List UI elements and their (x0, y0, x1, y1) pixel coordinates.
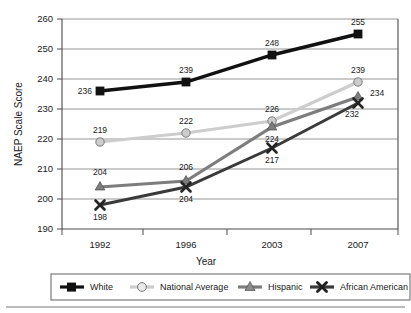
data-label-hispanic-2007: 234 (370, 88, 384, 98)
data-label-hispanic-1992: 204 (93, 167, 107, 177)
legend-label-white: White (90, 282, 113, 292)
data-label-national-2007: 239 (351, 65, 365, 75)
y-tick-label-260: 260 (37, 13, 53, 24)
data-label-white-2003: 248 (265, 38, 279, 48)
chart-figure: 260 250 240 230 220 210 200 190 1992 199… (0, 0, 411, 313)
y-tick-label-210: 210 (37, 163, 53, 174)
x-axis-title: Year (196, 256, 217, 267)
data-label-white-2007: 255 (351, 17, 365, 27)
y-tick-label-200: 200 (37, 193, 53, 204)
data-label-national-1992: 219 (93, 125, 107, 135)
x-tick-label-1992: 1992 (89, 239, 110, 250)
circle-marker-icon (96, 138, 104, 146)
data-label-hispanic-1996: 206 (179, 162, 193, 172)
circle-marker-icon (354, 78, 362, 86)
chart-legend: White National Average Hispanic (51, 274, 410, 300)
y-tick-label-190: 190 (37, 223, 53, 234)
data-label-white-1992: 236 (78, 86, 92, 96)
legend-item-national-average[interactable]: National Average (130, 282, 228, 292)
circle-marker-icon (138, 283, 147, 292)
y-axis-title: NAEP Scale Score (13, 82, 24, 166)
x-tick-label-2007: 2007 (347, 239, 368, 250)
legend-label-hispanic: Hispanic (268, 282, 303, 292)
square-marker-icon (182, 78, 191, 87)
data-label-national-1996: 222 (179, 116, 193, 126)
legend-label-national-average: National Average (160, 282, 228, 292)
y-tick-label-240: 240 (37, 73, 53, 84)
square-marker-icon (67, 283, 76, 292)
data-label-african-1992: 198 (93, 212, 107, 222)
y-tick-label-220: 220 (37, 133, 53, 144)
data-label-african-1996: 204 (179, 194, 193, 204)
circle-marker-icon (182, 129, 190, 137)
x-tick-label-1996: 1996 (175, 239, 196, 250)
data-label-white-1996: 239 (179, 65, 193, 75)
square-marker-icon (268, 51, 277, 60)
square-marker-icon (96, 87, 105, 96)
data-label-african-2003: 217 (265, 155, 279, 165)
y-tick-label-250: 250 (37, 43, 53, 54)
x-tick-label-2003: 2003 (261, 239, 282, 250)
legend-item-african-american[interactable]: African American (310, 282, 408, 292)
legend-label-african-american: African American (340, 282, 408, 292)
data-label-african-2007: 232 (345, 109, 359, 119)
square-marker-icon (354, 30, 363, 39)
data-label-hispanic-2003: 224 (265, 134, 279, 144)
data-label-national-2003: 226 (265, 104, 279, 114)
naep-line-chart: 260 250 240 230 220 210 200 190 1992 199… (0, 0, 411, 313)
y-tick-label-230: 230 (37, 103, 53, 114)
